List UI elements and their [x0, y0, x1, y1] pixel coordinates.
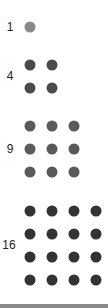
dot-icon	[47, 229, 58, 240]
dot-icon	[91, 252, 102, 263]
dot-icon	[25, 275, 36, 286]
group-label-1: 1	[7, 21, 14, 33]
dot-icon	[25, 60, 36, 71]
dot-icon	[91, 275, 102, 286]
dot-icon	[25, 144, 36, 155]
dot-icon	[25, 206, 36, 217]
dot-icon	[47, 275, 58, 286]
dot-icon	[25, 22, 36, 33]
dot-icon	[69, 144, 80, 155]
dot-icon	[47, 121, 58, 132]
dot-icon	[91, 206, 102, 217]
dot-icon	[25, 121, 36, 132]
dot-icon	[69, 229, 80, 240]
dot-icon	[25, 252, 36, 263]
dot-icon	[25, 167, 36, 178]
group-label-4: 4	[7, 70, 14, 82]
dot-icon	[69, 252, 80, 263]
dot-icon	[47, 83, 58, 94]
dot-icon	[47, 167, 58, 178]
dot-icon	[47, 60, 58, 71]
dot-icon	[47, 206, 58, 217]
dot-icon	[91, 229, 102, 240]
dot-icon	[47, 144, 58, 155]
bottom-divider	[0, 304, 108, 308]
dot-icon	[47, 252, 58, 263]
group-label-9: 9	[7, 143, 14, 155]
group-label-16: 16	[2, 239, 15, 251]
dot-icon	[25, 229, 36, 240]
dot-icon	[69, 206, 80, 217]
dot-icon	[69, 275, 80, 286]
dot-icon	[69, 167, 80, 178]
dot-icon	[25, 83, 36, 94]
dot-icon	[69, 121, 80, 132]
